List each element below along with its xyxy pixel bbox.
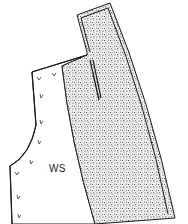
- wrong-side-label: WS: [49, 163, 66, 174]
- pattern-diagram: [0, 0, 188, 224]
